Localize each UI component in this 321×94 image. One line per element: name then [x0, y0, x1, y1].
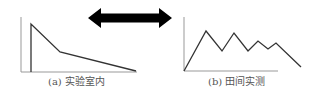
panel-b-caption: (b) 田间实测 [208, 76, 265, 88]
panel-a-chart [21, 17, 137, 72]
panel-b-chart [184, 17, 301, 71]
panel-a-axes [21, 17, 137, 72]
panel-b-axes [184, 17, 278, 71]
panel-b-curve [184, 31, 301, 71]
panel-a-caption: (a) 实验室内 [48, 76, 105, 88]
double-headed-arrow-icon [88, 8, 172, 28]
panel-a-curve [31, 24, 136, 72]
